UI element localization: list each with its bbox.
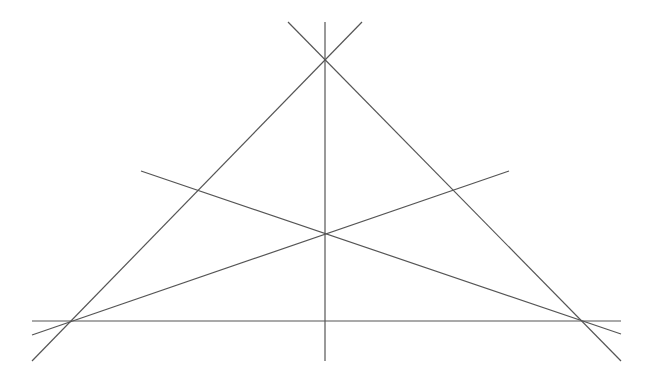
lines-group <box>32 22 621 361</box>
median-from-right-line <box>141 171 621 334</box>
right-side-line <box>288 22 621 361</box>
median-from-left-line <box>32 171 509 335</box>
left-side-line <box>32 22 362 361</box>
triangle-medians-diagram <box>0 0 647 379</box>
